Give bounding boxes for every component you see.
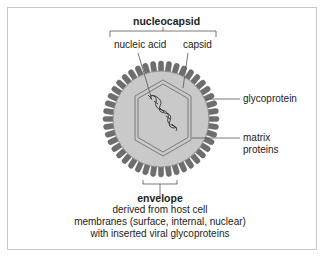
label-envelope-desc-3: with inserted viral glycoproteins — [60, 228, 260, 240]
label-capsid: capsid — [183, 39, 212, 51]
label-nucleocapsid: nucleocapsid — [133, 15, 200, 27]
nucleocapsid-bracket — [110, 27, 216, 37]
label-envelope-desc-1: derived from host cell — [60, 204, 260, 216]
label-envelope: envelope — [60, 192, 260, 204]
label-nucleic-acid: nucleic acid — [114, 39, 166, 51]
label-matrix-line1: matrix — [243, 132, 270, 144]
label-matrix-line2: proteins — [243, 144, 279, 156]
label-envelope-desc-2: membranes (surface, internal, nuclear) — [40, 216, 280, 228]
label-glycoprotein: glycoprotein — [243, 93, 297, 105]
